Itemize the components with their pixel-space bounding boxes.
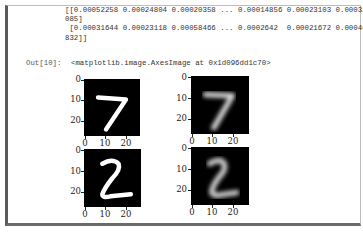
stream-line: [0.00031644 0.00023118 0.00058466 ... 0.… bbox=[65, 24, 355, 33]
xtick-label: 20 bbox=[119, 209, 133, 219]
digit-image bbox=[191, 76, 249, 134]
xtick-label: 10 bbox=[205, 207, 219, 217]
xtick-label: 10 bbox=[98, 138, 112, 148]
stream-output: [[0.00052258 0.00024804 0.00020358 ... 0… bbox=[65, 6, 355, 43]
ytick-label: 0 bbox=[173, 72, 187, 82]
ytick-label: 10 bbox=[173, 164, 187, 174]
ytick-label: 20 bbox=[173, 184, 187, 194]
out-repr: <matplotlib.image.AxesImage at 0x1d096dd… bbox=[71, 59, 271, 67]
xtick-label: 0 bbox=[185, 136, 199, 146]
ytick-label: 0 bbox=[67, 145, 81, 155]
stream-line: [[0.00052258 0.00024804 0.00020358 ... 0… bbox=[65, 6, 355, 15]
ytick-label: 0 bbox=[173, 143, 187, 153]
out-prompt: Out[10]: bbox=[26, 59, 61, 67]
ytick-label: 10 bbox=[173, 93, 187, 103]
xtick-label: 0 bbox=[78, 209, 92, 219]
ytick-label: 20 bbox=[67, 186, 81, 196]
stream-line: 085] bbox=[65, 15, 355, 24]
digit-2-glyph bbox=[84, 149, 141, 207]
xtick-label: 10 bbox=[205, 136, 219, 146]
xtick-label: 20 bbox=[119, 138, 133, 148]
ytick-label: 20 bbox=[173, 113, 187, 123]
digit-7-glyph-blurred bbox=[191, 76, 249, 134]
ytick-label: 10 bbox=[67, 166, 81, 176]
digit-2-glyph-blurred bbox=[191, 147, 249, 205]
digit-image bbox=[84, 149, 141, 207]
xtick-label: 10 bbox=[98, 209, 112, 219]
xtick-label: 20 bbox=[226, 207, 240, 217]
digit-7-glyph bbox=[84, 79, 140, 136]
digit-image bbox=[84, 79, 140, 136]
ytick-label: 10 bbox=[67, 94, 81, 104]
digit-image bbox=[191, 147, 249, 205]
xtick-label: 20 bbox=[226, 136, 240, 146]
stream-line: 832]] bbox=[65, 34, 355, 43]
xtick-label: 0 bbox=[185, 207, 199, 217]
ytick-label: 0 bbox=[67, 74, 81, 84]
ytick-label: 20 bbox=[67, 115, 81, 125]
